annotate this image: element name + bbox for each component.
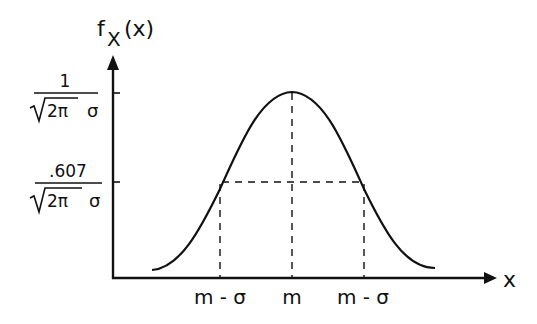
x-tick-label-left-sigma: m - σ <box>194 285 246 309</box>
y-axis-label-f: f <box>97 16 106 41</box>
dashed-guides <box>220 93 364 278</box>
y-axis-label: f X (x) <box>97 16 154 51</box>
peak-denominator-root: 2π <box>47 101 68 121</box>
y-axis <box>107 55 120 279</box>
x-axis-label: x <box>503 267 516 292</box>
peak-numerator: 1 <box>60 71 71 91</box>
y-axis-label-subscript: X <box>107 27 121 51</box>
607-numerator: .607 <box>49 161 87 181</box>
y-axis-label-arg: (x) <box>124 16 154 41</box>
peak-denominator-sigma: σ <box>87 100 98 121</box>
gaussian-curve <box>152 92 435 270</box>
x-axis-arrowhead-icon <box>484 272 497 284</box>
y-axis-arrowhead-icon <box>107 55 119 70</box>
607-denominator-sigma: σ <box>89 190 100 211</box>
x-axis <box>112 272 497 284</box>
607-denominator-root: 2π <box>47 191 68 211</box>
gaussian-diagram: f X (x) x 1 2π σ .607 2π σ m - σ m m - σ <box>0 0 537 324</box>
y-tick-label-peak: 1 2π σ <box>30 71 98 121</box>
y-tick-label-607: .607 2π σ <box>30 161 102 212</box>
x-tick-label-mean: m <box>282 285 301 309</box>
x-tick-label-right-sigma: m - σ <box>337 285 389 309</box>
